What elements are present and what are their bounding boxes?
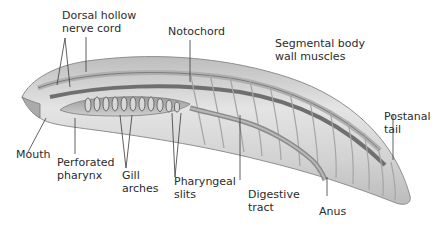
label-anus: Anus: [319, 205, 346, 218]
label-segmental-muscles: Segmental body wall muscles: [275, 37, 365, 63]
label-notochord: Notochord: [168, 25, 225, 38]
label-dorsal-nerve-cord: Dorsal hollow nerve cord: [62, 9, 136, 35]
label-perforated-pharynx: Perforated pharynx: [57, 156, 114, 182]
label-pharyngeal-slits: Pharyngeal slits: [174, 175, 236, 201]
label-gill-arches: Gill arches: [122, 169, 159, 195]
label-postanal-tail: Postanal tail: [384, 110, 431, 136]
label-mouth: Mouth: [16, 148, 50, 161]
label-digestive-tract: Digestive tract: [248, 188, 300, 214]
